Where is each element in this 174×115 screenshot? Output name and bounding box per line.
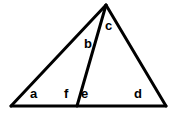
- angle-label-d: d: [134, 87, 142, 100]
- geometry-figure: a b c d e f: [0, 0, 174, 115]
- angle-label-c: c: [105, 19, 112, 32]
- angle-label-b: b: [84, 37, 92, 50]
- angle-label-a: a: [30, 87, 37, 100]
- angle-label-f: f: [64, 87, 68, 100]
- angle-label-e: e: [81, 87, 88, 100]
